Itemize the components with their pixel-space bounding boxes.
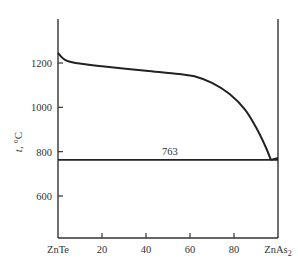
x-tick-label: 20 [97,244,108,255]
liquidus-curve [58,53,271,160]
svg-text:t, °C: t, °C [12,132,24,152]
eutectic-label: 763 [162,146,178,157]
y-tick-label: 800 [36,147,52,158]
y-tick-label: 600 [36,191,52,202]
axes [58,19,278,238]
x-tick-label: 60 [185,244,196,255]
series [58,53,278,160]
y-axis-title: t, °C [12,132,24,152]
x-right-label: ZnAs2 [264,244,291,258]
x-tick-label: ZnTe [47,244,69,255]
y-tick-label: 1200 [31,58,52,69]
x-tick-label: 40 [141,244,152,255]
svg-text:ZnAs2: ZnAs2 [264,244,291,258]
x-tick-label: 80 [229,244,240,255]
phase-diagram: 60080010001200 ZnTe20406080 763 t, °C Zn… [0,0,298,267]
y-tick-label: 1000 [31,102,52,113]
x-ticks: ZnTe20406080 [47,233,239,255]
